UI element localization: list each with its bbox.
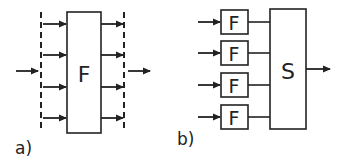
- sub-block-label: F: [229, 43, 240, 65]
- sub-block-label: F: [229, 75, 240, 97]
- sub-block-label: F: [229, 12, 240, 34]
- caption-a: a): [15, 138, 32, 158]
- diagram-canvas: F a) F F F F S b): [0, 0, 343, 161]
- sub-block-label: F: [229, 107, 240, 129]
- combiner-label: S: [281, 59, 295, 84]
- diagram-a: F a): [15, 12, 150, 158]
- caption-b: b): [177, 129, 194, 149]
- block-f-label: F: [78, 62, 91, 87]
- diagram-b: F F F F S b): [177, 9, 330, 149]
